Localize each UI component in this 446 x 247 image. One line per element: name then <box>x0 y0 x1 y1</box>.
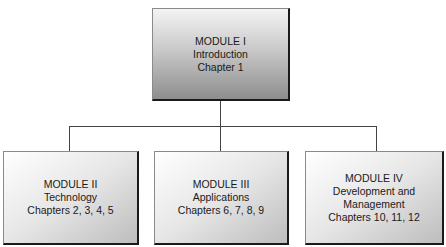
node-module-3: MODULE III Applications Chapters 6, 7, 8… <box>154 151 289 245</box>
node-module-2: MODULE II Technology Chapters 2, 3, 4, 5 <box>3 151 139 245</box>
node-chapters: Chapters 6, 7, 8, 9 <box>178 204 264 217</box>
node-subtitle: Technology <box>44 191 97 204</box>
node-title: MODULE IV <box>345 172 403 185</box>
node-subtitle: Introduction <box>193 48 248 61</box>
node-title: MODULE II <box>44 178 98 191</box>
node-module-4: MODULE IV Development and Management Cha… <box>305 151 444 245</box>
node-subtitle: Applications <box>193 191 250 204</box>
node-module-1: MODULE I Introduction Chapter 1 <box>152 8 290 101</box>
connector-horizontal <box>69 126 376 127</box>
connector-left-down <box>69 126 70 151</box>
node-chapters: Chapters 2, 3, 4, 5 <box>27 204 113 217</box>
connector-right-down <box>376 126 377 151</box>
node-chapters: Chapter 1 <box>197 61 243 74</box>
node-title: MODULE III <box>193 178 250 191</box>
node-subtitle: Development and <box>333 185 415 198</box>
node-subtitle-cont: Management <box>343 198 404 211</box>
node-chapters: Chapters 10, 11, 12 <box>328 211 419 224</box>
node-title: MODULE I <box>195 35 246 48</box>
